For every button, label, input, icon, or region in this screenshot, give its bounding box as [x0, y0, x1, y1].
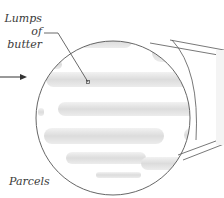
label-line-2: of butter — [0, 25, 42, 51]
parcels-label: Parcels — [9, 175, 50, 188]
lumps-of-butter-label: Lumps of butter — [0, 12, 42, 51]
butter-lamination-diagram: Lumps of butter Parcels — [0, 0, 224, 198]
arrow-icon — [0, 74, 27, 80]
label-line-1: Lumps — [0, 12, 42, 25]
butter-lumps — [38, 34, 204, 178]
offscreen-block — [216, 50, 224, 145]
